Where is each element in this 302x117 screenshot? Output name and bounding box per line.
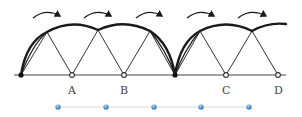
rolling-triangle-diagram: A B C D — [0, 0, 302, 117]
rotation-arrow-icon — [187, 12, 214, 18]
rotation-arrow-icon — [136, 12, 162, 18]
label-D: D — [274, 84, 283, 97]
timeline-dot — [198, 104, 203, 109]
point-A — [70, 73, 75, 78]
point-C — [224, 73, 229, 78]
rotation-arrow-icon — [238, 12, 266, 18]
vertex-path-arcs — [21, 24, 286, 75]
rotation-arrows — [33, 12, 266, 18]
point-B — [122, 73, 127, 78]
timeline-dot — [103, 104, 108, 109]
timeline-dot — [246, 104, 251, 109]
timeline-dot — [151, 104, 156, 109]
point-D — [276, 73, 281, 78]
rotation-arrow-icon — [33, 12, 60, 18]
label-C: C — [222, 84, 230, 97]
rotation-arrow-icon — [84, 12, 111, 18]
point-start — [18, 72, 23, 77]
triangle-edges — [21, 30, 278, 75]
timeline — [55, 104, 251, 109]
timeline-dot — [55, 104, 60, 109]
label-A: A — [67, 84, 77, 97]
label-B: B — [120, 84, 128, 97]
point-middle — [172, 72, 177, 77]
